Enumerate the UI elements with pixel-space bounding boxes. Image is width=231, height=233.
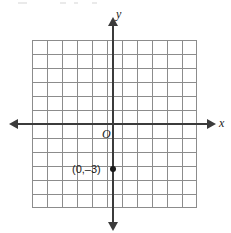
top-edge-artifact <box>74 2 78 4</box>
y-axis-line <box>112 26 114 222</box>
plotted-point-marker <box>110 166 116 172</box>
coordinate-plane-figure: y x O (0,–3) <box>0 0 231 233</box>
grid-line-horizontal <box>32 110 197 111</box>
grid-line-horizontal <box>32 54 197 55</box>
grid-line-horizontal <box>32 68 197 69</box>
grid-line-horizontal <box>32 82 197 83</box>
grid-line-horizontal <box>32 96 197 97</box>
top-edge-artifact <box>60 2 66 4</box>
x-axis-label: x <box>219 117 224 129</box>
top-edge-artifact <box>18 2 27 4</box>
grid-line-horizontal <box>32 40 197 41</box>
grid-line-horizontal <box>32 207 197 208</box>
y-axis-label: y <box>116 8 121 20</box>
plotted-point-label: (0,–3) <box>72 164 101 175</box>
top-edge-artifact <box>92 2 97 4</box>
grid-line-horizontal <box>32 138 197 139</box>
x-axis-arrow-left-icon <box>9 119 18 129</box>
y-axis-arrow-down-icon <box>108 222 118 231</box>
grid-line-horizontal <box>32 180 197 181</box>
x-axis-arrow-right-icon <box>207 119 216 129</box>
grid-line-horizontal <box>32 194 197 195</box>
grid-line-horizontal <box>32 152 197 153</box>
origin-label: O <box>102 128 111 140</box>
